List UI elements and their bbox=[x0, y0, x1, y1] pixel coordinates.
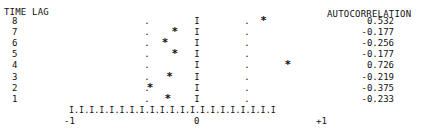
upper-confidence-mark: . bbox=[244, 60, 249, 70]
lag-label: 3 bbox=[12, 72, 17, 82]
autocorrelation-point: * bbox=[147, 83, 154, 93]
zero-line-mark: I bbox=[194, 27, 199, 37]
autocorrelation-point: * bbox=[172, 27, 179, 37]
lower-confidence-mark: . bbox=[144, 94, 149, 104]
upper-confidence-mark: . bbox=[244, 83, 249, 93]
upper-confidence-mark: . bbox=[244, 94, 249, 104]
lower-confidence-mark: . bbox=[144, 27, 149, 37]
autocorrelation-value: -0.375 bbox=[334, 83, 394, 93]
upper-confidence-mark: . bbox=[244, 38, 249, 48]
autocorrelation-point: * bbox=[284, 60, 291, 70]
autocorrelation-value: -0.177 bbox=[334, 27, 394, 37]
zero-line-mark: I bbox=[194, 38, 199, 48]
autocorrelation-point: * bbox=[260, 16, 267, 26]
lag-label: 5 bbox=[12, 49, 17, 59]
lag-label: 1 bbox=[12, 94, 17, 104]
autocorrelation-point: * bbox=[162, 38, 169, 48]
lower-confidence-mark: . bbox=[144, 16, 149, 26]
tick-label-neg1: -1 bbox=[64, 116, 75, 126]
lag-label: 6 bbox=[12, 38, 17, 48]
autocorrelation-point: * bbox=[172, 49, 179, 59]
zero-line-mark: I bbox=[194, 60, 199, 70]
zero-line-mark: I bbox=[194, 16, 199, 26]
autocorrelation-value: 0.532 bbox=[334, 16, 394, 26]
upper-confidence-mark: . bbox=[244, 49, 249, 59]
lag-label: 2 bbox=[12, 83, 17, 93]
upper-confidence-mark: . bbox=[244, 16, 249, 26]
zero-line-mark: I bbox=[194, 94, 199, 104]
autocorrelation-value: -0.177 bbox=[334, 49, 394, 59]
x-axis: I.I.I.I.I.I.I.I.I.I.I.I.I.I.I.I.I.I.I.I.… bbox=[69, 105, 276, 115]
zero-line-mark: I bbox=[194, 83, 199, 93]
lag-label: 4 bbox=[12, 60, 17, 70]
lag-label: 7 bbox=[12, 27, 17, 37]
zero-line-mark: I bbox=[194, 49, 199, 59]
upper-confidence-mark: . bbox=[244, 27, 249, 37]
lower-confidence-mark: . bbox=[144, 60, 149, 70]
tick-label-pos1: +1 bbox=[316, 116, 327, 126]
autocorrelation-point: * bbox=[165, 94, 172, 104]
tick-label-0: 0 bbox=[194, 116, 200, 126]
autocorrelation-value: -0.233 bbox=[334, 94, 394, 104]
autocorrelation-value: -0.256 bbox=[334, 38, 394, 48]
autocorrelation-value: 0.726 bbox=[334, 60, 394, 70]
time-lag-header: TIME LAG bbox=[4, 7, 49, 17]
upper-confidence-mark: . bbox=[244, 72, 249, 82]
lower-confidence-mark: . bbox=[144, 38, 149, 48]
lower-confidence-mark: . bbox=[144, 49, 149, 59]
autocorrelation-point: * bbox=[166, 72, 173, 82]
zero-line-mark: I bbox=[194, 72, 199, 82]
lag-label: 8 bbox=[12, 16, 17, 26]
autocorrelation-value: -0.219 bbox=[334, 72, 394, 82]
